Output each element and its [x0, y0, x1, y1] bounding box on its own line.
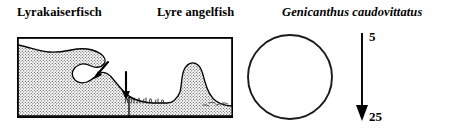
depth-scale: 5 25 [352, 29, 414, 127]
circle-outline [248, 35, 332, 119]
common-name-german-title: Lyrakaiserfisch [17, 5, 102, 20]
reef-profile-svg [17, 37, 233, 118]
circle-svg [246, 31, 336, 123]
common-name-english-title: Lyre angelfish [157, 5, 234, 20]
empty-circle-illustration [246, 31, 336, 123]
reef-profile-illustration [17, 37, 233, 118]
figure-panel: Lyrakaiserfisch Lyre angelfish Genicanth… [0, 0, 456, 132]
depth-shallow-label: 5 [369, 29, 376, 45]
scientific-name-title: Genicanthus caudovittatus [282, 5, 422, 20]
depth-deep-label: 25 [369, 109, 382, 125]
